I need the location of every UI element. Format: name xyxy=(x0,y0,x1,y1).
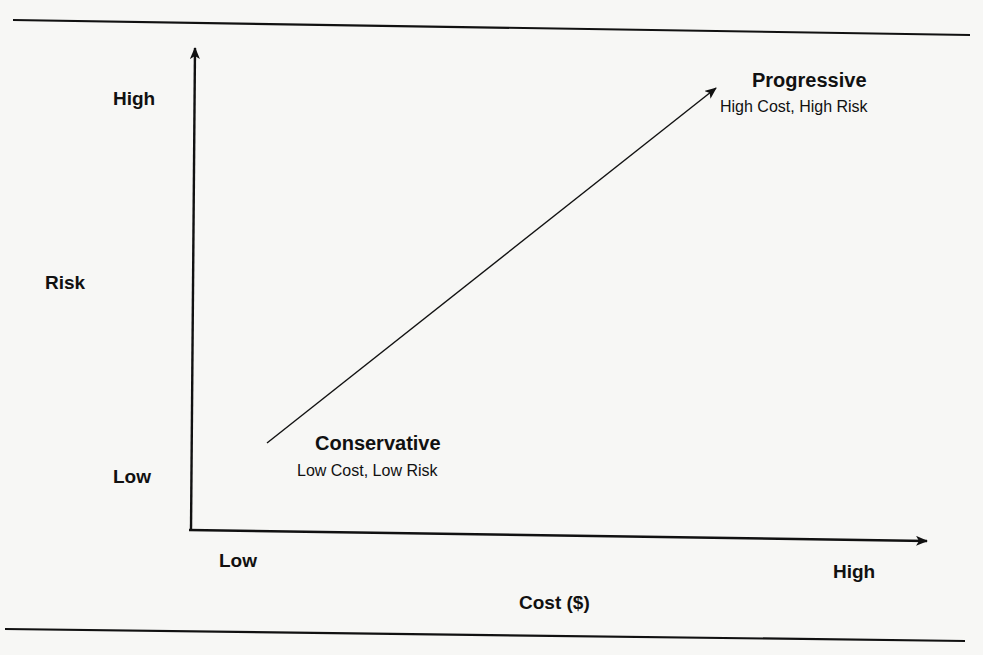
x-axis-high-label: High xyxy=(833,561,875,583)
progressive-description: High Cost, High Risk xyxy=(720,98,868,116)
x-axis-low-label: Low xyxy=(219,550,257,572)
bottom-rule xyxy=(5,629,965,641)
conservative-title: Conservative xyxy=(315,432,441,455)
x-axis-title: Cost ($) xyxy=(519,592,590,614)
top-rule xyxy=(13,20,970,35)
y-axis-title: Risk xyxy=(45,272,85,294)
y-axis-low-label: Low xyxy=(113,466,151,488)
y-axis-arrow xyxy=(191,48,195,530)
conservative-description: Low Cost, Low Risk xyxy=(297,462,438,480)
trend-arrow xyxy=(267,88,716,443)
x-axis-arrow xyxy=(189,530,927,541)
progressive-title: Progressive xyxy=(752,69,867,92)
y-axis-high-label: High xyxy=(113,88,155,110)
